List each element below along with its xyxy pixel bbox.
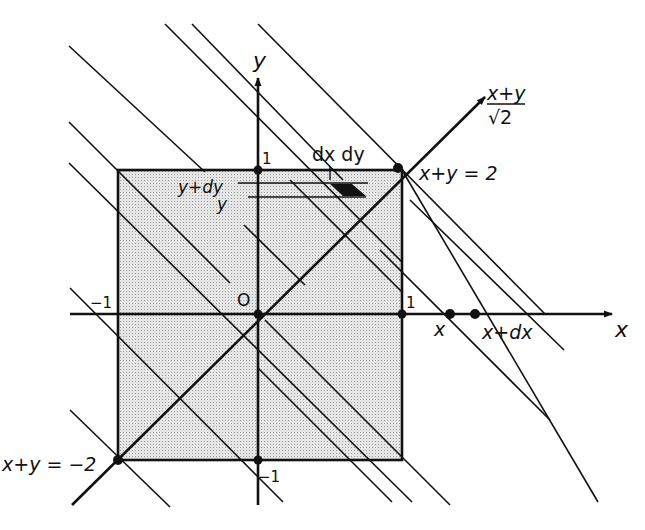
diagram-svg: y x x+y √2 x+y = 2 x+y = −2 dx dy y+dy y… [0, 0, 645, 530]
tick-label-x1: 1 [406, 294, 416, 312]
line-label-top: x+y = 2 [418, 162, 498, 184]
x-axis-label: x [614, 317, 629, 342]
area-element-label: dx dy [312, 143, 365, 165]
tick-label-x-neg1: −1 [90, 294, 112, 312]
diagram-canvas: y x x+y √2 x+y = 2 x+y = −2 dx dy y+dy y… [0, 0, 645, 530]
point-x-plus-dx [470, 309, 480, 319]
point-x [445, 309, 455, 319]
line-label-bottom: x+y = −2 [1, 453, 96, 475]
y-level-label: y [216, 194, 228, 214]
point-corner-top-right [393, 163, 403, 173]
point-origin [254, 310, 263, 319]
diagonal-axis-numerator: x+y [486, 82, 526, 104]
tick-label-y-neg1: −1 [258, 468, 280, 486]
point-corner-bottom-left [113, 455, 123, 465]
x-point-label: x [433, 318, 446, 340]
diagonal-axis-denominator: √2 [488, 106, 512, 128]
x-plus-dx-label: x+dx [481, 321, 533, 343]
tick-label-origin: O [237, 290, 250, 310]
tick-label-y1: 1 [262, 150, 272, 168]
y-axis-label: y [252, 48, 267, 73]
point-y-neg1 [254, 456, 263, 465]
